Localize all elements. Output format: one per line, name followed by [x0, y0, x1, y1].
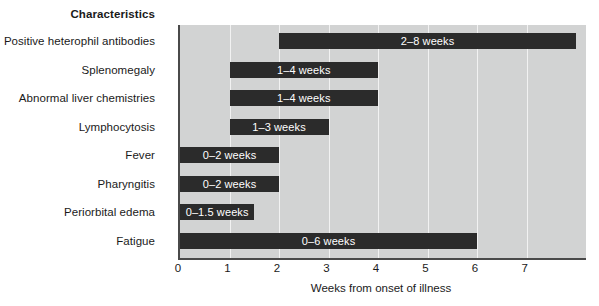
x-axis-tick-label: 2 — [265, 262, 289, 274]
bar: 1–4 weeks — [230, 90, 379, 106]
category-label: Pharyngitis — [98, 177, 155, 191]
x-axis-tick-label: 6 — [463, 262, 487, 274]
category-label: Fever — [125, 148, 155, 162]
horizontal-bar-chart: Characteristics Positive heterophil anti… — [0, 0, 599, 306]
category-label: Fatigue — [116, 234, 155, 248]
category-label-column: Characteristics Positive heterophil anti… — [0, 0, 172, 306]
gridline — [527, 25, 528, 258]
gridline — [329, 25, 330, 258]
plot-area: 2–8 weeks1–4 weeks1–4 weeks1–3 weeks0–2 … — [178, 25, 586, 260]
gridline — [378, 25, 379, 258]
gridline — [279, 25, 280, 258]
bar: 0–1.5 weeks — [180, 204, 254, 220]
bar-value-label: 1–3 weeks — [230, 119, 329, 135]
x-axis-tick-label: 0 — [166, 262, 190, 274]
x-axis-tick-label: 4 — [364, 262, 388, 274]
bar-value-label: 1–4 weeks — [230, 90, 379, 106]
bar: 1–4 weeks — [230, 62, 379, 78]
category-label: Abnormal liver chemistries — [19, 91, 155, 105]
bar-value-label: 0–2 weeks — [180, 176, 279, 192]
x-axis-tick-label: 7 — [513, 262, 537, 274]
gridline — [477, 25, 478, 258]
bar: 0–2 weeks — [180, 176, 279, 192]
bar-value-label: 2–8 weeks — [279, 33, 576, 49]
bar: 0–6 weeks — [180, 233, 477, 249]
category-column-header: Characteristics — [70, 8, 155, 20]
category-label: Splenomegaly — [82, 63, 155, 77]
bar: 2–8 weeks — [279, 33, 576, 49]
gridline — [428, 25, 429, 258]
x-axis-title: Weeks from onset of illness — [178, 282, 584, 294]
gridline — [230, 25, 231, 258]
category-label: Lymphocytosis — [79, 120, 155, 134]
bar-value-label: 0–6 weeks — [180, 233, 477, 249]
bar-value-label: 1–4 weeks — [230, 62, 379, 78]
x-axis-tick-label: 3 — [315, 262, 339, 274]
bar: 1–3 weeks — [230, 119, 329, 135]
category-label: Positive heterophil antibodies — [4, 34, 155, 48]
category-label: Periorbital edema — [64, 205, 155, 219]
x-axis-tick-label: 5 — [414, 262, 438, 274]
x-axis-tick-label: 1 — [216, 262, 240, 274]
bar-value-label: 0–1.5 weeks — [180, 204, 254, 220]
bar: 0–2 weeks — [180, 147, 279, 163]
bar-value-label: 0–2 weeks — [180, 147, 279, 163]
